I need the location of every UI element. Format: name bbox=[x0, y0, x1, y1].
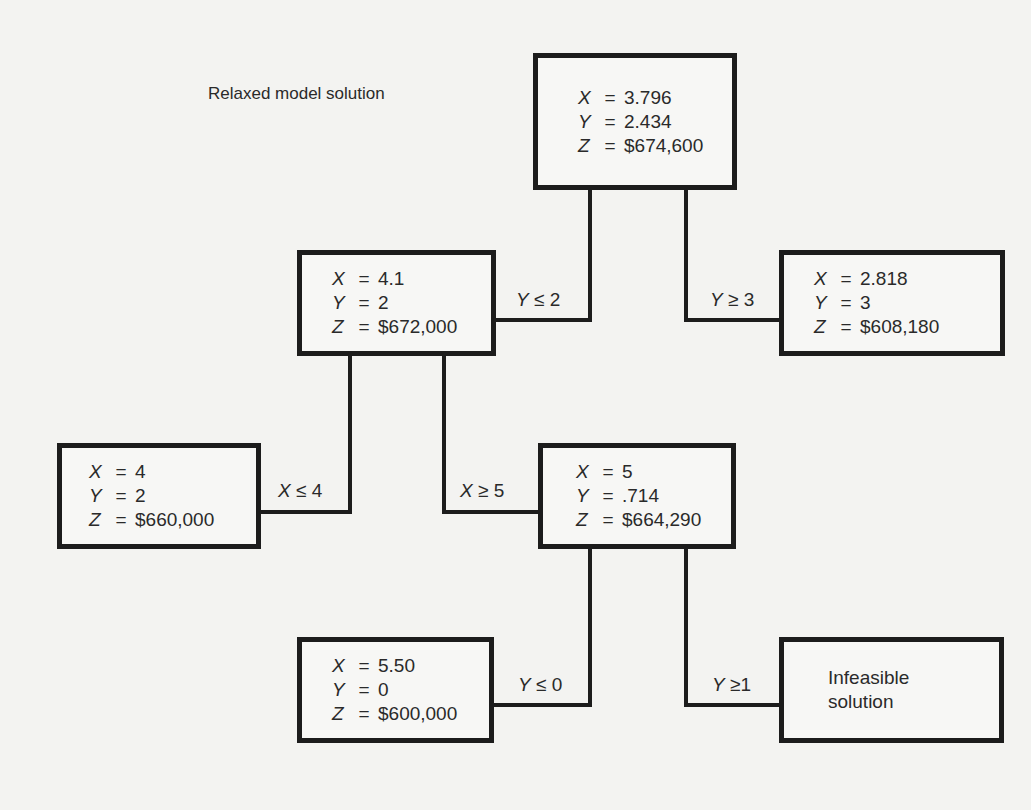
edge-n1-left-horizontal bbox=[261, 510, 352, 514]
edge-n1-left-vertical bbox=[348, 356, 352, 514]
branch-label-x-ge-5: X ≥ 5 bbox=[460, 480, 504, 502]
equals: = bbox=[107, 460, 135, 484]
node-y-le-2: X=4.1 Y=2 Z=$672,000 bbox=[297, 250, 496, 356]
equals: = bbox=[596, 110, 624, 134]
var-z: Z bbox=[89, 508, 107, 532]
branch-val: 2 bbox=[550, 289, 561, 310]
equals: = bbox=[596, 86, 624, 110]
branch-op: ≤ bbox=[536, 674, 546, 695]
branch-val: 5 bbox=[494, 480, 505, 501]
value-y: .714 bbox=[622, 485, 659, 506]
branch-op: ≥ bbox=[730, 674, 740, 695]
edge-n1-right-vertical bbox=[442, 356, 446, 514]
var-z: Z bbox=[578, 134, 596, 158]
edge-n4-left-vertical bbox=[588, 549, 592, 707]
equals: = bbox=[350, 267, 378, 291]
edge-n4-right-vertical bbox=[684, 549, 688, 707]
node-infeasible: Infeasible solution bbox=[779, 637, 1004, 743]
equals: = bbox=[594, 484, 622, 508]
value-x: 5.50 bbox=[378, 655, 415, 676]
var-x: X bbox=[578, 86, 596, 110]
equals: = bbox=[350, 291, 378, 315]
var-y: Y bbox=[89, 484, 107, 508]
value-x: 2.818 bbox=[860, 268, 908, 289]
var-z: Z bbox=[332, 315, 350, 339]
branch-op: ≥ bbox=[478, 480, 488, 501]
value-z: $660,000 bbox=[135, 509, 214, 530]
branch-var: X bbox=[460, 480, 473, 501]
branch-op: ≥ bbox=[728, 289, 738, 310]
value-x: 5 bbox=[622, 461, 633, 482]
equals: = bbox=[594, 508, 622, 532]
equals: = bbox=[350, 315, 378, 339]
edge-n4-left-horizontal bbox=[494, 703, 592, 707]
branch-val: 1 bbox=[740, 674, 751, 695]
branch-val: 4 bbox=[312, 480, 323, 501]
value-y: 0 bbox=[378, 679, 389, 700]
var-y: Y bbox=[332, 291, 350, 315]
branch-label-y-ge-1: Y ≥1 bbox=[712, 674, 751, 696]
relaxed-model-caption: Relaxed model solution bbox=[208, 84, 385, 104]
var-x: X bbox=[576, 460, 594, 484]
equals: = bbox=[594, 460, 622, 484]
var-x: X bbox=[332, 654, 350, 678]
infeasible-line2: solution bbox=[828, 690, 999, 714]
edge-root-right-horizontal bbox=[684, 318, 779, 322]
branch-label-y-ge-3: Y ≥ 3 bbox=[710, 289, 754, 311]
branch-label-y-le-0: Y ≤ 0 bbox=[518, 674, 562, 696]
value-x: 4 bbox=[135, 461, 146, 482]
var-z: Z bbox=[576, 508, 594, 532]
value-z: $600,000 bbox=[378, 703, 457, 724]
value-x: 4.1 bbox=[378, 268, 404, 289]
var-z: Z bbox=[332, 702, 350, 726]
node-x-ge-5: X=5 Y=.714 Z=$664,290 bbox=[538, 443, 736, 549]
equals: = bbox=[107, 484, 135, 508]
equals: = bbox=[832, 267, 860, 291]
var-y: Y bbox=[814, 291, 832, 315]
equals: = bbox=[832, 291, 860, 315]
node-x-le-4: X=4 Y=2 Z=$660,000 bbox=[57, 443, 261, 549]
var-y: Y bbox=[578, 110, 596, 134]
var-y: Y bbox=[576, 484, 594, 508]
branch-var: X bbox=[278, 480, 291, 501]
equals: = bbox=[832, 315, 860, 339]
edge-root-right-vertical bbox=[684, 190, 688, 322]
edge-root-left-vertical bbox=[588, 190, 592, 322]
branch-var: Y bbox=[516, 289, 529, 310]
var-z: Z bbox=[814, 315, 832, 339]
value-x: 3.796 bbox=[624, 87, 672, 108]
node-y-ge-3: X=2.818 Y=3 Z=$608,180 bbox=[779, 250, 1005, 356]
branch-var: Y bbox=[518, 674, 531, 695]
node-root: X=3.796 Y=2.434 Z=$674,600 bbox=[533, 53, 737, 190]
branch-val: 0 bbox=[552, 674, 563, 695]
value-z: $664,290 bbox=[622, 509, 701, 530]
var-x: X bbox=[814, 267, 832, 291]
branch-op: ≤ bbox=[534, 289, 544, 310]
branch-val: 3 bbox=[744, 289, 755, 310]
value-y: 2 bbox=[135, 485, 146, 506]
equals: = bbox=[350, 702, 378, 726]
value-y: 2 bbox=[378, 292, 389, 313]
edge-n1-right-horizontal bbox=[442, 510, 538, 514]
node-y-le-0: X=5.50 Y=0 Z=$600,000 bbox=[297, 637, 494, 743]
value-z: $674,600 bbox=[624, 135, 703, 156]
equals: = bbox=[350, 654, 378, 678]
branch-label-y-le-2: Y ≤ 2 bbox=[516, 289, 560, 311]
var-x: X bbox=[89, 460, 107, 484]
branch-var: Y bbox=[712, 674, 725, 695]
branch-op: ≤ bbox=[296, 480, 306, 501]
edge-root-left-horizontal bbox=[496, 318, 592, 322]
infeasible-line1: Infeasible bbox=[828, 666, 999, 690]
branch-var: Y bbox=[710, 289, 723, 310]
branch-label-x-le-4: X ≤ 4 bbox=[278, 480, 322, 502]
value-y: 2.434 bbox=[624, 111, 672, 132]
equals: = bbox=[596, 134, 624, 158]
edge-n4-right-horizontal bbox=[684, 703, 779, 707]
equals: = bbox=[107, 508, 135, 532]
value-y: 3 bbox=[860, 292, 871, 313]
value-z: $608,180 bbox=[860, 316, 939, 337]
value-z: $672,000 bbox=[378, 316, 457, 337]
var-y: Y bbox=[332, 678, 350, 702]
var-x: X bbox=[332, 267, 350, 291]
equals: = bbox=[350, 678, 378, 702]
